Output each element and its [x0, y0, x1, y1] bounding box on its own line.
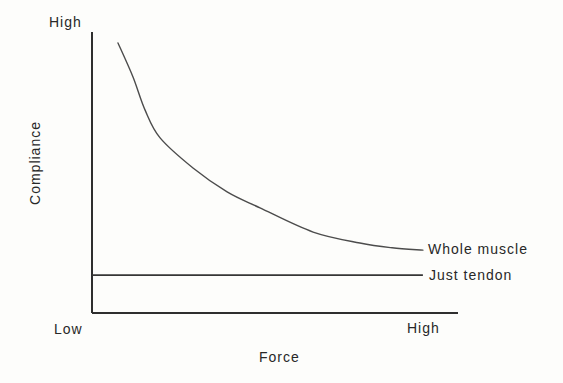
x-axis-title: Force — [259, 350, 300, 365]
compliance-vs-force-figure: High Compliance Low High Force Whole mus… — [0, 0, 563, 383]
x-axis-tick-low-label: Low — [54, 322, 83, 337]
whole-muscle-curve — [118, 43, 423, 250]
series-label-whole-muscle: Whole muscle — [428, 242, 528, 257]
y-axis-title: Compliance — [28, 121, 43, 205]
plot-canvas — [0, 0, 563, 383]
y-axis-tick-high-label: High — [49, 15, 82, 30]
x-axis-tick-high-label: High — [407, 321, 440, 336]
series-label-just-tendon: Just tendon — [429, 268, 512, 283]
